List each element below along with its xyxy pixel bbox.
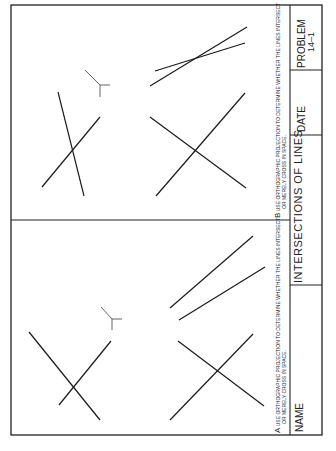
problem-number: 14–1 (306, 32, 316, 52)
problem-b-lines (42, 27, 247, 196)
problem-a-instructions: A USE ORTHOGRAPHIC PROJECTION TO DETERMI… (275, 218, 287, 433)
problem-b-instructions: B USE ORTHOGRAPHIC PROJECTION TO DETERMI… (275, 3, 287, 218)
problem-a-lines (29, 236, 265, 420)
reference-axis-icon (101, 307, 122, 330)
worksheet-title: INTERSECTIONS OF LINES (292, 130, 304, 283)
date-cell: DATE (296, 106, 307, 132)
reference-axis-icon (85, 70, 110, 97)
name-field: NAME (294, 403, 305, 432)
